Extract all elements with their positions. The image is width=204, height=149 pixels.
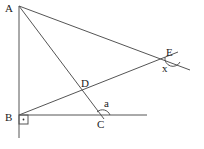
line-be [19, 52, 178, 115]
line-ac [19, 6, 104, 119]
geometry-diagram: A B C D E a x [0, 0, 204, 149]
line-ae [19, 6, 190, 70]
label-d-point: D [81, 77, 89, 89]
label-c-point: C [97, 118, 104, 130]
label-angle-a: a [104, 97, 109, 109]
label-b-point: B [5, 111, 12, 123]
label-a-point: A [5, 2, 13, 14]
label-angle-x: x [162, 62, 168, 74]
right-angle-dot [23, 119, 25, 121]
label-e-point: E [166, 46, 173, 58]
